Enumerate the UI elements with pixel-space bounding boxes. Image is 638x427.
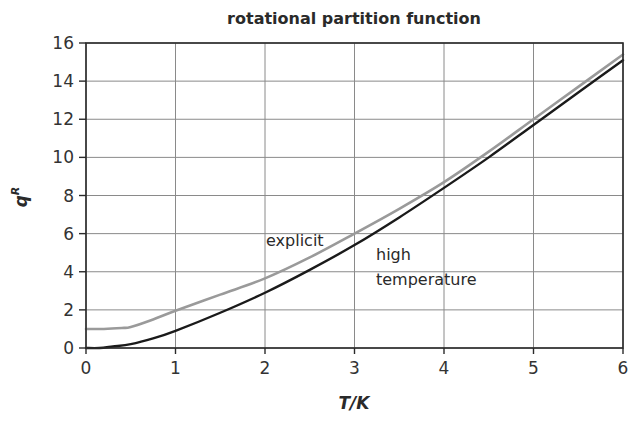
svg-text:qR: qR	[9, 187, 31, 208]
y-axis-label: qR	[9, 187, 31, 208]
y-tick-label: 10	[52, 147, 74, 167]
chart: rotational partition function 0123456024…	[0, 0, 638, 427]
annotation-high: high	[376, 245, 411, 264]
y-tick-label: 0	[63, 338, 74, 358]
y-axis-label-sup: R	[9, 187, 22, 195]
axis-ticks: 01234560246810121416	[52, 33, 628, 378]
x-tick-label: 3	[349, 358, 360, 378]
y-tick-label: 14	[52, 71, 74, 91]
x-tick-label: 2	[260, 358, 271, 378]
y-tick-label: 8	[63, 186, 74, 206]
y-tick-label: 12	[52, 109, 74, 129]
x-tick-label: 1	[170, 358, 181, 378]
annotation-temperature: temperature	[376, 270, 477, 289]
y-tick-label: 6	[63, 224, 74, 244]
y-tick-label: 16	[52, 33, 74, 53]
grid-lines	[86, 43, 623, 348]
y-axis-label-main: q	[11, 195, 31, 207]
x-tick-label: 6	[618, 358, 629, 378]
x-tick-label: 0	[81, 358, 92, 378]
y-tick-label: 4	[63, 262, 74, 282]
x-tick-label: 5	[528, 358, 539, 378]
x-tick-label: 4	[439, 358, 450, 378]
y-tick-label: 2	[63, 300, 74, 320]
chart-title: rotational partition function	[227, 9, 481, 28]
x-axis-label: T/K	[339, 393, 372, 413]
annotation-explicit: explicit	[266, 231, 324, 250]
